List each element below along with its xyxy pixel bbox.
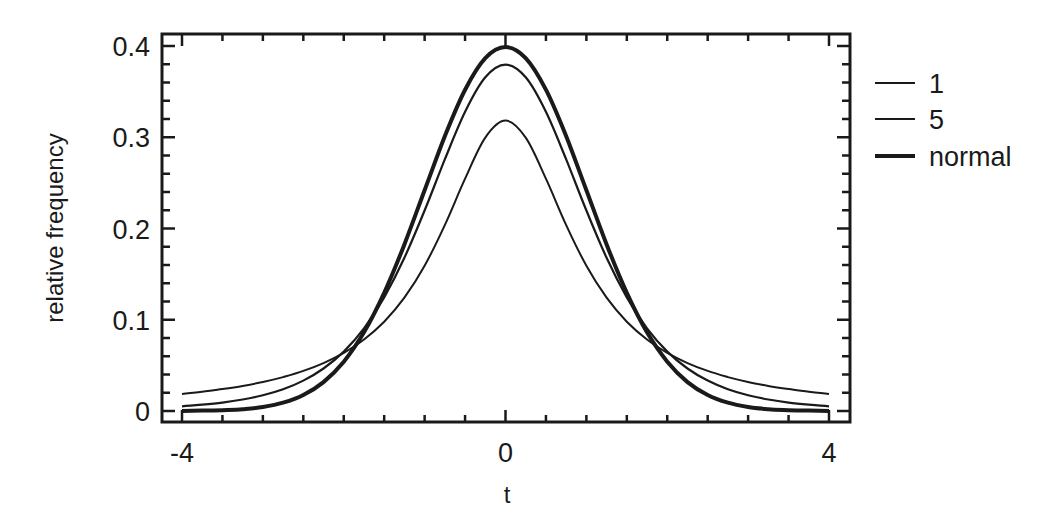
series-line-normal	[182, 47, 829, 411]
legend-label: 1	[929, 69, 944, 99]
y-tick-label: 0.1	[112, 306, 150, 336]
plot-frame	[162, 34, 850, 422]
y-tick-label: 0.2	[112, 215, 150, 245]
legend-label: normal	[929, 142, 1012, 172]
y-axis-tick-labels: 00.10.20.30.4	[112, 32, 150, 427]
legend-label: 5	[929, 105, 944, 135]
x-axis-label: t	[504, 481, 511, 508]
x-tick-label: 0	[498, 438, 513, 468]
series-line-5	[182, 65, 829, 407]
series-line-1	[182, 121, 829, 394]
t-distribution-chart: -404 00.10.20.30.4 t relative frequency …	[0, 0, 1062, 526]
series-lines	[182, 47, 829, 411]
x-tick-label: 4	[821, 438, 836, 468]
y-axis-ticks	[162, 46, 850, 411]
x-axis-tick-labels: -404	[170, 438, 837, 468]
y-tick-label: 0.3	[112, 123, 150, 153]
y-axis-label: relative frequency	[41, 133, 68, 322]
x-tick-label: -4	[170, 438, 194, 468]
legend: 15normal	[875, 69, 1012, 172]
x-axis-ticks	[182, 34, 829, 422]
y-tick-label: 0.4	[112, 32, 150, 62]
y-tick-label: 0	[135, 397, 150, 427]
